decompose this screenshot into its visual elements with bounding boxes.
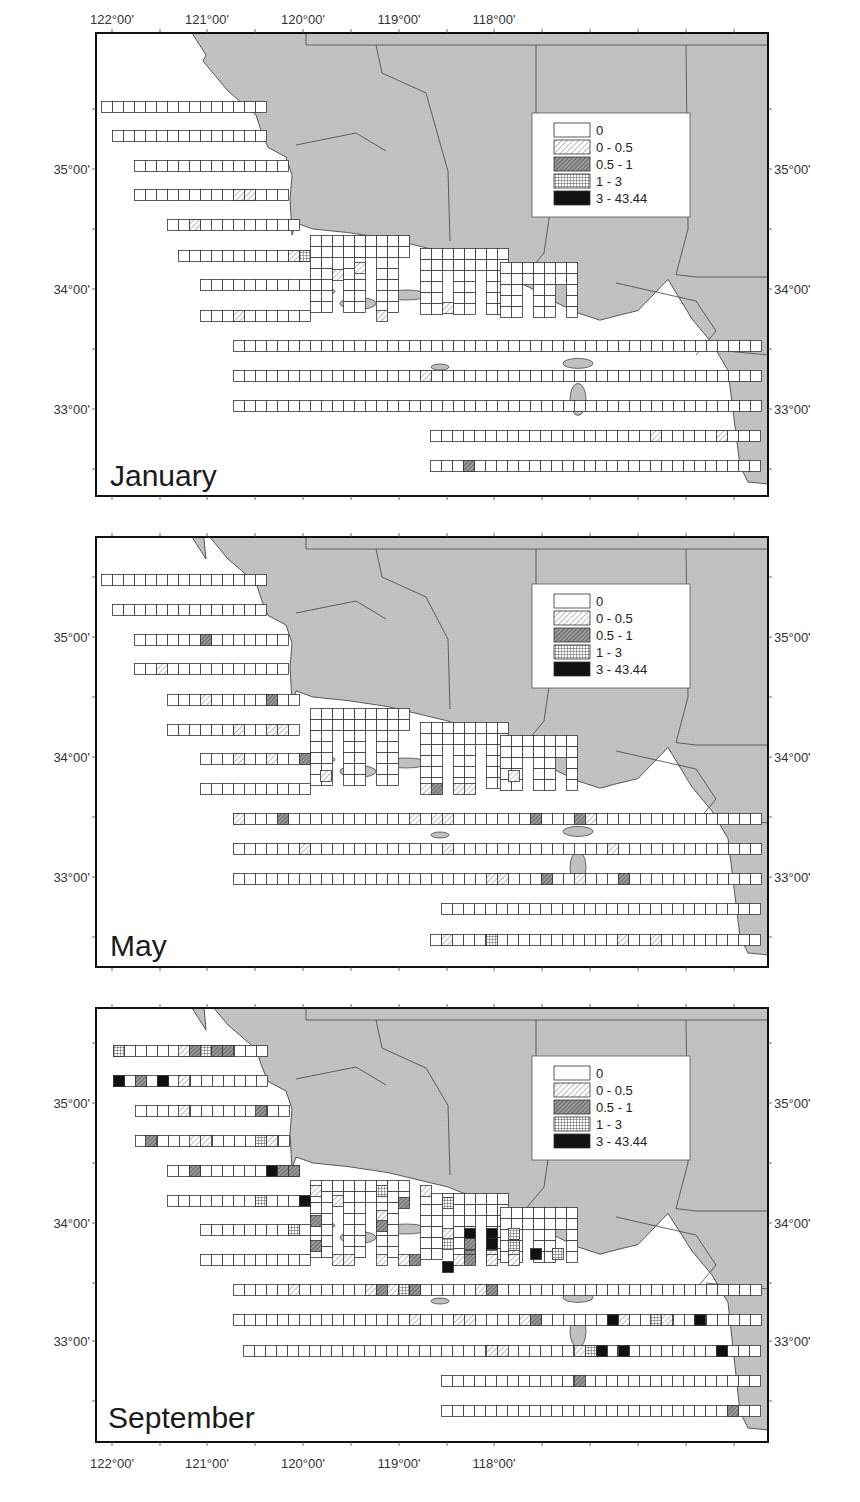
grid-cell xyxy=(541,935,552,946)
grid-cell xyxy=(545,274,556,285)
grid-cell xyxy=(377,775,388,786)
grid-cell xyxy=(523,736,534,747)
grid-cell xyxy=(256,695,267,706)
grid-cell xyxy=(597,1285,608,1296)
grid-cell-class-1 xyxy=(201,695,212,706)
grid-cell xyxy=(322,1247,333,1258)
grid-cell xyxy=(567,780,578,791)
grid-cell xyxy=(201,190,212,201)
grid-cell-class-2 xyxy=(487,1285,498,1296)
grid-cell xyxy=(695,431,706,442)
grid-cell xyxy=(596,431,607,442)
grid-cell xyxy=(201,754,212,765)
grid-cell xyxy=(674,844,685,855)
grid-cell-class-4 xyxy=(597,1346,608,1357)
grid-cell xyxy=(388,1181,399,1192)
grid-cell xyxy=(498,844,509,855)
grid-cell xyxy=(717,935,728,946)
grid-cell xyxy=(465,260,476,271)
grid-cell-class-2 xyxy=(410,1255,421,1266)
grid-cell xyxy=(542,1285,553,1296)
grid-cell xyxy=(212,190,223,201)
grid-cell xyxy=(662,1406,673,1417)
lat-label-left: 35°00' xyxy=(53,1096,90,1111)
grid-cell xyxy=(552,431,563,442)
grid-cell xyxy=(388,1315,399,1326)
grid-cell xyxy=(399,1315,410,1326)
grid-cell xyxy=(234,341,245,352)
grid-cell xyxy=(267,784,278,795)
grid-cell xyxy=(564,401,575,412)
grid-cell xyxy=(476,260,487,271)
grid-cell xyxy=(344,1214,355,1225)
grid-cell xyxy=(267,1196,278,1207)
grid-cell xyxy=(739,935,750,946)
grid-cell xyxy=(289,311,300,322)
grid-cell xyxy=(541,431,552,442)
lat-label-left: 34°00' xyxy=(53,1216,90,1231)
grid-cell xyxy=(388,341,399,352)
grid-cell xyxy=(487,304,498,315)
grid-cell xyxy=(278,220,289,231)
grid-cell xyxy=(740,814,751,825)
grid-cell xyxy=(640,431,651,442)
lat-label-left: 34°00' xyxy=(53,750,90,765)
grid-cell xyxy=(289,754,300,765)
grid-cell-class-1 xyxy=(289,1285,300,1296)
grid-cell xyxy=(512,758,523,769)
grid-cell xyxy=(311,1315,322,1326)
grid-cell xyxy=(596,935,607,946)
grid-cell-class-1 xyxy=(651,935,662,946)
grid-cell-class-1 xyxy=(333,270,344,281)
grid-cell xyxy=(607,1406,618,1417)
grid-cell-class-1 xyxy=(442,935,453,946)
grid-cell xyxy=(619,814,630,825)
grid-cell-class-2 xyxy=(223,1046,234,1057)
grid-cell xyxy=(729,874,740,885)
grid-cell xyxy=(333,844,344,855)
grid-cell xyxy=(454,844,465,855)
grid-cell-class-1 xyxy=(190,220,201,231)
grid-cell xyxy=(751,371,762,382)
grid-cell-class-2 xyxy=(136,1076,147,1087)
grid-cell xyxy=(179,635,190,646)
grid-cell xyxy=(619,844,630,855)
grid-cell xyxy=(432,767,443,778)
grid-cell xyxy=(534,1230,545,1241)
grid-cell xyxy=(608,341,619,352)
grid-cell xyxy=(201,161,212,172)
grid-cell xyxy=(388,720,399,731)
grid-cell xyxy=(322,236,333,247)
grid-cell xyxy=(388,844,399,855)
grid-cell xyxy=(256,1225,267,1236)
grid-cell-class-1 xyxy=(366,1285,377,1296)
grid-cell xyxy=(212,1196,223,1207)
lon-label-top: 121°00' xyxy=(185,12,229,27)
grid-cell xyxy=(487,371,498,382)
grid-cell xyxy=(662,904,673,915)
legend-swatch xyxy=(554,1066,590,1080)
legend-entry-label: 0 xyxy=(596,594,603,609)
grid-cell-class-4 xyxy=(267,1166,278,1177)
grid-cell xyxy=(234,1285,245,1296)
grid-cell xyxy=(344,1181,355,1192)
grid-cell xyxy=(552,935,563,946)
grid-cell-class-1 xyxy=(618,935,629,946)
grid-cell xyxy=(245,311,256,322)
grid-cell-class-3 xyxy=(443,1239,454,1250)
grid-cell xyxy=(113,131,124,142)
grid-cell xyxy=(246,1136,257,1147)
grid-cell xyxy=(399,814,410,825)
grid-cell xyxy=(545,736,556,747)
grid-cell xyxy=(223,754,234,765)
grid-cell xyxy=(256,371,267,382)
grid-cell xyxy=(630,874,641,885)
grid-cell xyxy=(409,1346,420,1357)
grid-cell xyxy=(421,767,432,778)
grid-cell xyxy=(377,371,388,382)
grid-cell xyxy=(355,302,366,313)
grid-cell xyxy=(212,1166,223,1177)
grid-cell xyxy=(289,1315,300,1326)
grid-cell xyxy=(267,664,278,675)
grid-cell xyxy=(552,1376,563,1387)
